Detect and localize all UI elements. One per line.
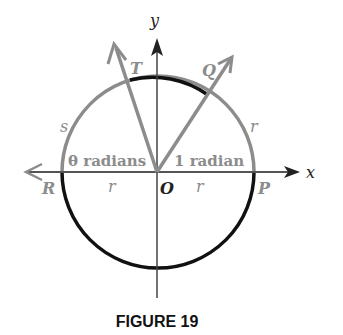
- arc-r-label: r: [250, 117, 259, 136]
- point-t-label: T: [130, 59, 143, 78]
- origin-label: O: [160, 179, 174, 198]
- arc-s-label: s: [60, 117, 68, 136]
- figure-caption: FIGURE 19: [116, 313, 199, 330]
- one-radian-label: 1 radian: [174, 152, 244, 170]
- point-r-label: R: [41, 179, 55, 198]
- y-axis-label: y: [149, 11, 160, 30]
- radius-left-label: r: [108, 177, 117, 196]
- theta-radians-label: θ radians: [68, 152, 146, 170]
- lower-arc: [62, 172, 254, 268]
- x-axis-label: x: [306, 163, 315, 182]
- arc-t-to-q: [130, 77, 208, 95]
- point-p-label: P: [257, 179, 271, 198]
- point-q-label: Q: [202, 61, 216, 80]
- radian-diagram: y x T Q s r θ radians 1 radian R r O r P…: [0, 0, 343, 335]
- radius-right-label: r: [196, 177, 205, 196]
